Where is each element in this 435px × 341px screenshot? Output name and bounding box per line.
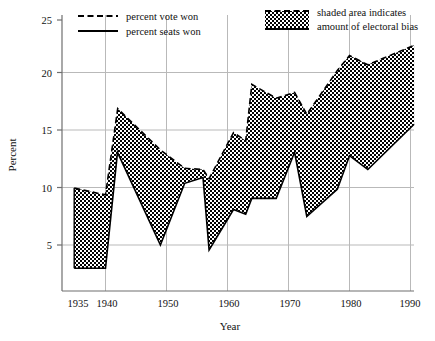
xtick-label-1990: 1990 xyxy=(400,298,421,309)
legend-swatch-bias-pattern xyxy=(265,11,309,29)
ytick-label-20: 20 xyxy=(42,68,53,79)
ytick-label-10: 10 xyxy=(42,183,53,194)
legend-label-shaded-line2: amount of electoral bias xyxy=(317,21,418,32)
legend-label-shaded-line1: shaded area indicates xyxy=(317,7,406,18)
ytick-label-15: 15 xyxy=(42,125,53,136)
xtick-label-1960: 1960 xyxy=(219,298,240,309)
xtick-label-1935: 1935 xyxy=(68,298,89,309)
ytick-label-5: 5 xyxy=(47,240,52,251)
xtick-label-1970: 1970 xyxy=(280,298,301,309)
legend-label-vote: percent vote won xyxy=(126,11,199,22)
xtick-label-1940: 1940 xyxy=(97,298,118,309)
chart-figure: 25 20 15 10 5 1935 1940 1950 1960 1970 1… xyxy=(0,0,435,341)
xtick-label-1950: 1950 xyxy=(158,298,179,309)
y-axis-title: Percent xyxy=(6,139,18,172)
x-axis-title: Year xyxy=(220,320,241,332)
xtick-label-1980: 1980 xyxy=(341,298,362,309)
electoral-bias-chart: 25 20 15 10 5 1935 1940 1950 1960 1970 1… xyxy=(0,0,435,341)
legend-label-seats: percent seats won xyxy=(126,26,201,37)
ytick-label-25: 25 xyxy=(42,15,53,26)
